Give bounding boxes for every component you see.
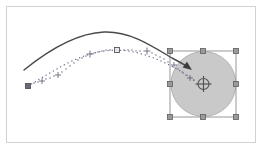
trail-marker-plus-1[interactable]	[39, 78, 45, 84]
artwork-layer	[0, 0, 262, 149]
trail-dot	[97, 51, 99, 53]
trail-dot	[127, 49, 129, 51]
handle-bottom-center[interactable]	[201, 115, 206, 120]
trail-dot	[81, 57, 83, 59]
trail-dot	[45, 78, 47, 80]
trail-marker-plus-2[interactable]	[55, 72, 61, 78]
handle-bottom-left[interactable]	[168, 115, 173, 120]
trail-dot	[159, 56, 161, 58]
motion-path-arrow[interactable]	[24, 32, 188, 70]
trail-dot	[49, 77, 51, 79]
trail-dot	[37, 81, 39, 83]
artwork-svg	[0, 0, 262, 149]
vector-canvas[interactable]	[0, 0, 262, 149]
trail-marker-plus-3[interactable]	[87, 51, 94, 58]
handle-top-left[interactable]	[168, 49, 173, 54]
trail-dot	[193, 79, 195, 81]
trail-dot	[77, 59, 79, 61]
trail-dot	[139, 50, 141, 52]
trail-dot	[53, 75, 55, 77]
trail-dot	[109, 49, 111, 51]
trail-marker-plus-4[interactable]	[144, 48, 151, 55]
trail-dot	[93, 52, 95, 54]
trail-dot	[167, 61, 169, 63]
trail-dot	[123, 49, 125, 51]
trail-dot	[105, 49, 107, 51]
handle-top-right[interactable]	[234, 49, 239, 54]
trail-dot	[61, 71, 63, 73]
trail-dot	[65, 68, 67, 70]
trail-marker-square-apex[interactable]	[115, 48, 120, 53]
trail-dot	[33, 82, 35, 84]
handle-top-center[interactable]	[201, 49, 206, 54]
trail-dot	[85, 55, 87, 57]
trail-dot	[131, 49, 133, 51]
handle-bottom-right[interactable]	[234, 115, 239, 120]
trail-dot	[151, 52, 153, 54]
trail-dot	[185, 74, 187, 76]
trail-dot-sequence	[33, 49, 195, 84]
handle-middle-right[interactable]	[234, 82, 239, 87]
handle-middle-left[interactable]	[168, 82, 173, 87]
trail-marker-square-start[interactable]	[26, 84, 31, 89]
trail-dot	[155, 54, 157, 56]
trail-dot	[69, 65, 71, 67]
trail-dot	[177, 68, 179, 70]
trail-dot	[163, 58, 165, 60]
trail-dot	[101, 50, 103, 52]
trail-dot	[73, 62, 75, 64]
trail-dot	[181, 71, 183, 73]
trail-dot	[135, 50, 137, 52]
